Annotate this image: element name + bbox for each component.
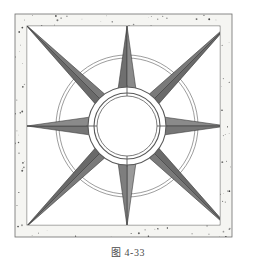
speckle [221,86,222,87]
speckle [22,162,24,164]
speckle [21,170,23,172]
speckle [56,19,58,21]
speckle [229,228,231,230]
speckle [112,21,113,22]
speckle [144,229,145,230]
speckle [55,15,57,17]
speckle [20,112,22,114]
speckle [54,24,55,25]
speckle [24,20,25,21]
speckle [148,17,149,18]
speckle [24,161,25,162]
speckle [24,84,25,85]
speckle [166,18,168,20]
speckle [47,231,48,232]
speckle [18,153,19,154]
speckle [206,225,207,226]
speckle [229,42,230,43]
speckle [18,135,19,136]
speckle [229,82,230,83]
speckle [225,202,226,203]
speckle [208,18,210,20]
speckle [226,161,227,162]
speckle [223,78,224,79]
speckle [203,15,204,16]
speckle [32,15,33,16]
speckle [223,231,225,233]
speckle [216,19,217,20]
speckle [191,233,192,234]
speckle [22,168,23,169]
speckle [22,63,23,64]
speckle [100,21,101,22]
speckle [158,229,159,230]
speckle [221,110,223,112]
speckle [21,111,23,113]
speckle [162,16,163,17]
speckle [106,15,107,16]
speckle [223,193,224,194]
speckle [223,135,224,136]
figure-root: 图 4-33 [0,0,256,271]
speckle [82,19,83,20]
speckle [38,233,39,234]
speckle [208,233,209,234]
speckle [66,15,68,17]
speckle [23,167,25,169]
drawing-plate [0,0,256,243]
speckle [157,228,158,229]
speckle [17,226,19,228]
speckle [229,133,230,134]
speckle [18,142,19,143]
speckle [22,86,24,88]
speckle [16,130,17,131]
speckle [224,139,225,140]
speckle [60,17,61,18]
speckle [157,19,158,20]
speckle [167,227,168,228]
speckle [21,224,23,226]
speckle [20,45,21,46]
speckle [19,51,20,52]
speckle [21,27,23,29]
speckle [133,24,135,26]
speckle [16,100,17,101]
figure-caption: 图 4-33 [0,244,256,259]
speckle [225,134,226,135]
speckle [154,229,155,230]
speckle [151,16,152,17]
speckle [229,190,231,192]
speckle [32,235,33,236]
speckle [222,45,223,46]
speckle [138,232,140,234]
speckle [111,236,112,237]
speckle [131,233,132,234]
speckle [227,191,228,192]
speckle [222,201,223,202]
speckle [221,161,223,163]
speckle [230,167,231,168]
speckle [75,236,76,237]
speckle [196,18,198,20]
speckle [18,31,19,32]
rosette-drawing [0,0,256,243]
center-hub [97,96,157,156]
speckle [16,205,17,206]
speckle [18,192,19,193]
speckle [227,126,228,127]
